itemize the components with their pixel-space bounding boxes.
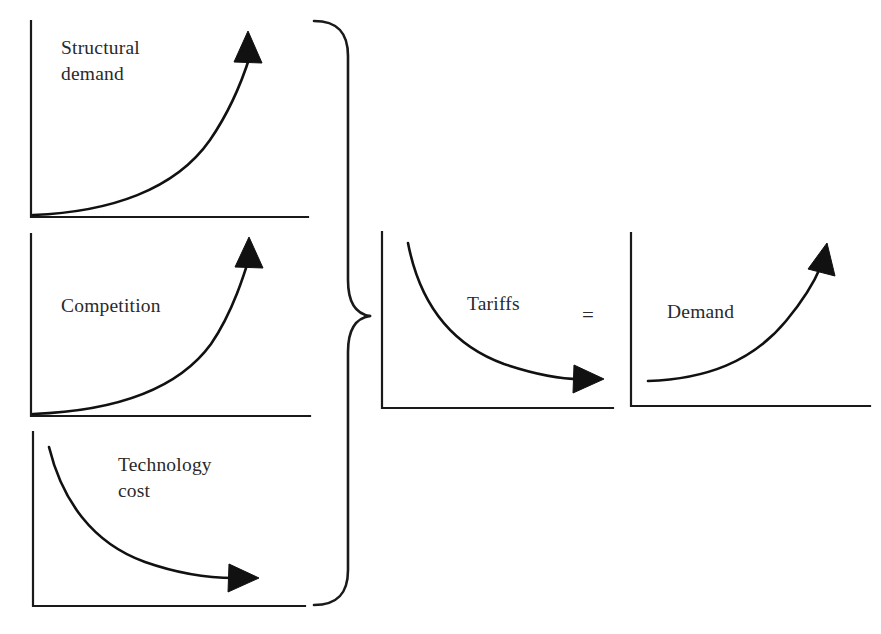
curly-brace — [314, 21, 370, 605]
diagram-canvas: Structural demand Competition Technology… — [0, 0, 881, 634]
equals-operator-symbol: = — [582, 303, 594, 327]
arrowhead-tariffs — [573, 365, 604, 393]
panel-label-structural-demand-line2: demand — [61, 63, 124, 84]
panel-demand[interactable]: Demand — [631, 233, 870, 406]
causal-diagram: Structural demand Competition Technology… — [0, 0, 881, 634]
arrowhead-demand — [808, 243, 835, 276]
brace-lower-half — [314, 316, 370, 605]
panel-label-demand: Demand — [667, 301, 734, 322]
arrowhead-competition — [235, 237, 263, 268]
panel-label-technology-cost-line2: cost — [118, 480, 151, 501]
axis-frame-competition — [31, 234, 310, 416]
panel-competition[interactable]: Competition — [31, 234, 310, 416]
panel-technology-cost[interactable]: Technology cost — [33, 432, 305, 606]
panel-structural-demand[interactable]: Structural demand — [31, 21, 308, 217]
panel-label-competition: Competition — [61, 295, 161, 316]
brace-upper-half — [314, 21, 370, 316]
curve-demand — [648, 266, 821, 381]
panel-label-technology-cost-line1: Technology — [118, 454, 212, 475]
panel-label-tariffs: Tariffs — [467, 293, 520, 314]
arrowhead-technology-cost — [228, 564, 259, 592]
panel-label-structural-demand-line1: Structural — [61, 37, 140, 58]
arrowhead-structural-demand — [234, 31, 262, 63]
curve-competition — [33, 252, 251, 414]
panel-tariffs[interactable]: Tariffs — [382, 232, 613, 408]
